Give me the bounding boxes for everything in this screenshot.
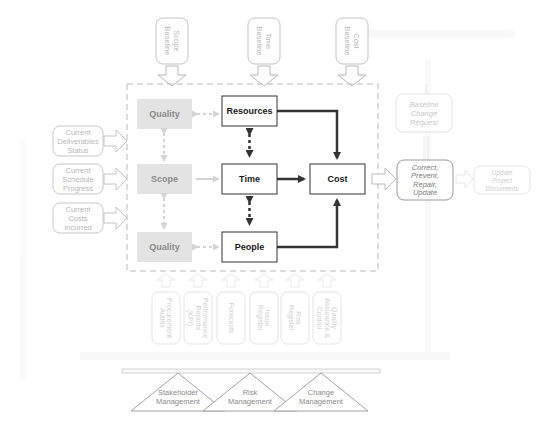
core-people[interactable]: People bbox=[222, 232, 277, 262]
tool-box[interactable]: QualityAssurance &Control bbox=[313, 274, 341, 344]
tool-box[interactable]: Forecasts bbox=[217, 274, 245, 344]
output-correct-prevent[interactable]: Correct,Prevent,Repair,Update bbox=[397, 160, 453, 200]
core-cost[interactable]: Cost bbox=[310, 164, 365, 194]
tools-group: ProcurementAuditsPerformanceReports(KPI)… bbox=[152, 274, 341, 344]
tool-label: Risk bbox=[295, 311, 302, 325]
input-arrow bbox=[104, 207, 127, 229]
foundation-label: Change bbox=[308, 388, 334, 397]
constraint-quality-top[interactable]: Quality bbox=[137, 99, 192, 129]
tool-label: (KPI) bbox=[186, 310, 194, 326]
tool-box[interactable]: RiskRegister bbox=[281, 274, 309, 344]
foundation-label: Risk bbox=[243, 388, 258, 397]
baseline-label: Baseline bbox=[255, 27, 264, 56]
input-label: Schedule bbox=[62, 175, 93, 184]
baseline-arrow bbox=[250, 66, 278, 86]
input-arrow bbox=[104, 130, 127, 152]
input-label: Current bbox=[65, 128, 91, 137]
foundation-triangle[interactable]: ChangeManagement bbox=[274, 373, 368, 411]
tool-arrow bbox=[255, 274, 273, 287]
update-docs-label: Project bbox=[492, 177, 513, 185]
tool-arrow bbox=[157, 274, 175, 287]
input-label: Deliverables bbox=[57, 137, 99, 146]
foundations-group: StakeholderManagementRiskManagementChang… bbox=[131, 373, 368, 411]
input-label: Costs bbox=[68, 214, 87, 223]
tool-label: Audits bbox=[159, 308, 166, 328]
baseline-label: Baseline bbox=[343, 27, 352, 56]
tool-label: Procurement bbox=[166, 298, 173, 338]
baseline-arrow bbox=[338, 66, 366, 86]
foundation-label: Management bbox=[228, 397, 273, 406]
quality-top-label: Quality bbox=[149, 109, 180, 119]
cost-label: Cost bbox=[328, 174, 348, 184]
core-resources[interactable]: Resources bbox=[222, 96, 277, 126]
quality-bottom-label: Quality bbox=[149, 242, 180, 252]
baseline-box[interactable]: ScopeBaseline bbox=[156, 18, 188, 86]
input-label: Current bbox=[65, 166, 91, 175]
input-label: Incurred bbox=[64, 223, 92, 232]
scope-label: Scope bbox=[151, 174, 178, 184]
foundation-bar bbox=[122, 369, 380, 373]
core-time[interactable]: Time bbox=[222, 164, 277, 194]
foundation-label: Stakeholder bbox=[158, 388, 199, 397]
time-label: Time bbox=[239, 174, 260, 184]
output-update-documents[interactable]: UpdateProjectDocuments bbox=[474, 166, 530, 194]
update-docs-label: Documents bbox=[486, 185, 520, 192]
baseline-group: ScopeBaselineTimeBaselineCostBaseline bbox=[156, 18, 368, 86]
tool-arrow bbox=[318, 274, 336, 287]
people-label: People bbox=[235, 242, 265, 252]
constraint-scope[interactable]: Scope bbox=[137, 164, 192, 194]
tool-box[interactable]: PerformanceReports(KPI) bbox=[184, 274, 212, 344]
input-box[interactable]: CurrentScheduleProgress bbox=[53, 164, 127, 194]
tool-label: Forecasts bbox=[228, 303, 235, 334]
foundation-label: Management bbox=[156, 397, 201, 406]
input-arrow bbox=[104, 168, 127, 190]
baseline-box[interactable]: TimeBaseline bbox=[248, 18, 280, 86]
tool-label: Register bbox=[287, 305, 295, 332]
bcr-label: Change bbox=[411, 109, 437, 118]
output-baseline-change-request[interactable]: BaselineChangeRequest bbox=[396, 94, 452, 132]
tool-label: Control bbox=[316, 307, 323, 330]
tool-label: Register bbox=[256, 305, 264, 332]
foundation-label: Management bbox=[299, 397, 344, 406]
tool-arrow bbox=[222, 274, 240, 287]
baseline-arrow bbox=[158, 66, 186, 86]
input-group: CurrentDeliverablesStatusCurrentSchedule… bbox=[53, 126, 127, 233]
bcr-label: Request bbox=[410, 118, 439, 127]
tool-label: Assurance & bbox=[324, 298, 331, 338]
baseline-box[interactable]: CostBaseline bbox=[336, 18, 368, 86]
resources-label: Resources bbox=[226, 106, 272, 116]
tool-box[interactable]: IssueRegister bbox=[250, 274, 278, 344]
input-label: Progress bbox=[63, 184, 93, 193]
input-label: Status bbox=[67, 146, 89, 155]
input-box[interactable]: CurrentCostsIncurred bbox=[53, 203, 127, 233]
project-control-diagram: ScopeBaselineTimeBaselineCostBaseline Cu… bbox=[0, 0, 542, 431]
tool-arrow bbox=[189, 274, 207, 287]
tool-box[interactable]: ProcurementAudits bbox=[152, 274, 180, 344]
input-label: Current bbox=[65, 205, 91, 214]
input-box[interactable]: CurrentDeliverablesStatus bbox=[53, 126, 127, 156]
tool-label: Issue bbox=[264, 310, 271, 327]
tool-label: Performance bbox=[202, 298, 209, 338]
correct-update-arrow bbox=[456, 170, 473, 188]
baseline-label: Baseline bbox=[163, 27, 172, 56]
bcr-label: Baseline bbox=[410, 100, 439, 109]
baseline-label: Time bbox=[264, 33, 273, 49]
constraint-quality-bottom[interactable]: Quality bbox=[137, 232, 192, 262]
cost-output-arrow bbox=[372, 168, 396, 190]
tool-arrow bbox=[286, 274, 304, 287]
baseline-label: Cost bbox=[352, 33, 361, 49]
update-docs-label: Update bbox=[492, 169, 513, 177]
baseline-label: Scope bbox=[172, 30, 181, 51]
correct-label: Update bbox=[413, 188, 437, 197]
